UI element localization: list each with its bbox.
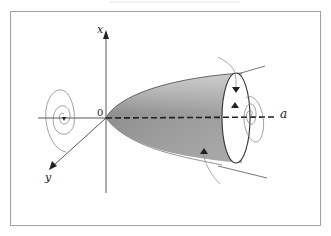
x-axis-label: x bbox=[97, 23, 104, 36]
origin-label: 0 bbox=[97, 107, 103, 118]
paraboloid-rotation-diagram: x y 0 a bbox=[0, 0, 331, 236]
y-axis-label: y bbox=[44, 171, 52, 184]
rotation-axis-label: a bbox=[280, 107, 287, 121]
diagram-canvas: x y 0 a bbox=[0, 0, 331, 236]
